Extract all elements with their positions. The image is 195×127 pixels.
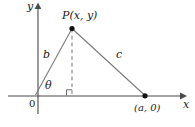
segment-b-label: b: [43, 49, 50, 60]
angle-theta-label: θ: [45, 80, 52, 91]
point-P-label: P(x, y): [62, 10, 97, 21]
segment-c: [72, 29, 145, 96]
point-a0-label: (a, 0): [134, 103, 160, 113]
geometry-figure: y x 0 P(x, y) (a, 0) b c θ: [0, 0, 195, 127]
y-axis-label: y: [27, 1, 33, 12]
right-angle-marker: [67, 90, 73, 96]
segment-b: [36, 29, 73, 96]
point-a0-dot: [142, 93, 147, 98]
point-P-dot: [69, 26, 74, 31]
origin-label: 0: [29, 99, 35, 109]
x-axis-label: x: [183, 99, 189, 110]
y-axis-arrowhead: [35, 3, 42, 10]
segment-c-label: c: [116, 49, 122, 60]
